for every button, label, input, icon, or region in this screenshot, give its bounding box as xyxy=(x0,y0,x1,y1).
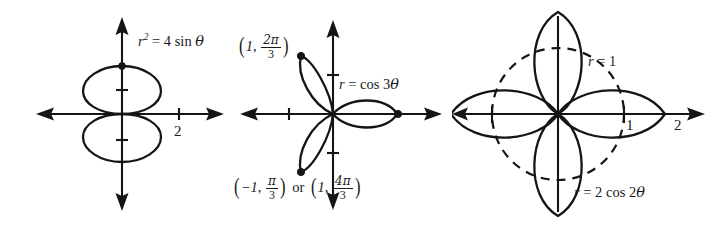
point-label-upper-left: (1, 2π3) xyxy=(238,35,289,61)
x-tick-label-1: 1 xyxy=(626,118,634,133)
rose3-petal-lower-left xyxy=(300,114,333,172)
figure-rose-four-petal: r = 1 1 2 r = 2 cos 2θ xyxy=(452,0,713,226)
equation-label-rose4: r = 2 cos 2θ xyxy=(574,185,645,200)
equation-label-rose3: r = cos 3θ xyxy=(339,77,399,92)
x-tick-label-2: 2 xyxy=(674,118,682,133)
figure-lemniscate: r2 = 4 sin θ 2 xyxy=(0,0,240,226)
equation-label-lemniscate: r2 = 4 sin θ xyxy=(138,33,204,48)
circle-label-r-equals-1: r = 1 xyxy=(588,54,616,69)
figure-rose-three-petal: (1, 2π3) r = cos 3θ (−1, π3) or (1, 4π3) xyxy=(232,0,460,226)
lemniscate-plot xyxy=(0,0,240,226)
rose3-petal-upper-left xyxy=(300,56,333,114)
point-label-lower-left: (−1, π3) or (1, 4π3) xyxy=(233,176,361,202)
point-marker-top xyxy=(119,63,126,70)
x-tick-label-2: 2 xyxy=(174,124,182,139)
point-marker-upper-left-tip xyxy=(297,52,304,59)
point-marker-lower-left-tip xyxy=(297,168,304,175)
point-marker-right-tip xyxy=(394,110,401,117)
polar-curves-figure: r2 = 4 sin θ 2 xyxy=(0,0,713,226)
